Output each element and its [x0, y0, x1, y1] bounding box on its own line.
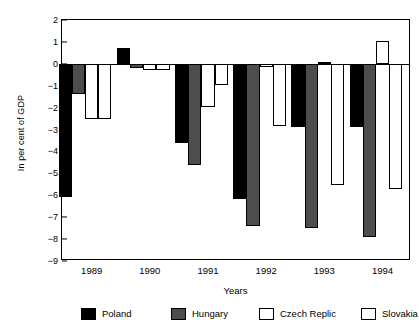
- legend-swatch-slovakia-icon: [361, 308, 376, 320]
- y-tick-label: −6: [48, 191, 58, 200]
- x-axis-label: Years: [61, 285, 410, 296]
- bar-hungary-1990[interactable]: [130, 64, 143, 68]
- chart-legend: PolandHungaryCzech ReplicSlovakia: [61, 305, 410, 323]
- bar-slovakia-1989[interactable]: [98, 64, 111, 119]
- bar-slovakia-1992[interactable]: [273, 64, 286, 126]
- bar-poland-1994[interactable]: [350, 64, 363, 128]
- bar-poland-1991[interactable]: [175, 64, 188, 143]
- bar-czech-1991[interactable]: [201, 64, 214, 107]
- y-tick-mark: [62, 260, 67, 261]
- legend-label-slovakia: Slovakia: [382, 309, 418, 319]
- y-tick-label: −2: [48, 103, 58, 112]
- y-tick-label: 0: [53, 59, 58, 68]
- y-tick-label: −4: [48, 147, 58, 156]
- bar-group: [237, 20, 295, 259]
- bar-group: [178, 20, 236, 259]
- bar-czech-1992[interactable]: [260, 64, 273, 67]
- bar-czech-1994[interactable]: [376, 41, 389, 64]
- legend-item-czech[interactable]: Czech Replic: [259, 308, 336, 320]
- bar-czech-1990[interactable]: [143, 64, 156, 71]
- bar-poland-1989[interactable]: [59, 64, 72, 198]
- legend-item-hungary[interactable]: Hungary: [171, 308, 228, 320]
- y-tick-label: −8: [48, 235, 58, 244]
- bar-group: [295, 20, 353, 259]
- bar-slovakia-1991[interactable]: [215, 64, 228, 85]
- bar-slovakia-1994[interactable]: [389, 64, 402, 189]
- x-tick-label-1993: 1993: [314, 266, 335, 276]
- bar-hungary-1992[interactable]: [246, 64, 259, 226]
- legend-label-hungary: Hungary: [192, 309, 228, 319]
- x-tick-label-1994: 1994: [372, 266, 393, 276]
- bar-slovakia-1993[interactable]: [331, 64, 344, 186]
- legend-swatch-poland-icon: [81, 308, 96, 320]
- x-tick-label-1990: 1990: [139, 266, 160, 276]
- bar-poland-1990[interactable]: [117, 48, 130, 63]
- legend-item-poland[interactable]: Poland: [81, 308, 132, 320]
- x-tick-label-1989: 1989: [81, 266, 102, 276]
- legend-swatch-hungary-icon: [171, 308, 186, 320]
- bar-poland-1993[interactable]: [291, 64, 304, 128]
- y-tick-label: −7: [48, 213, 58, 222]
- legend-swatch-czech-icon: [259, 308, 274, 320]
- bar-poland-1992[interactable]: [233, 64, 246, 199]
- y-tick-label: −5: [48, 169, 58, 178]
- legend-label-czech: Czech Replic: [280, 309, 336, 319]
- bar-group: [353, 20, 411, 259]
- y-tick-label: 2: [53, 16, 58, 25]
- bar-hungary-1993[interactable]: [305, 64, 318, 228]
- bar-hungary-1989[interactable]: [72, 64, 85, 95]
- legend-item-slovakia[interactable]: Slovakia: [361, 308, 418, 320]
- bar-hungary-1991[interactable]: [188, 64, 201, 165]
- y-tick-label: 1: [53, 37, 58, 46]
- y-tick-label: −3: [48, 125, 58, 134]
- bar-slovakia-1990[interactable]: [156, 64, 169, 71]
- bar-group: [120, 20, 178, 259]
- bar-group: [62, 20, 120, 259]
- legend-label-poland: Poland: [102, 309, 132, 319]
- bar-hungary-1994[interactable]: [363, 64, 376, 237]
- bar-czech-1989[interactable]: [85, 64, 98, 119]
- y-tick-label: −9: [48, 257, 58, 266]
- x-tick-label-1991: 1991: [197, 266, 218, 276]
- y-axis-label: In per cent of GDP: [16, 63, 26, 203]
- plot-area: 210−1−2−3−4−5−6−7−8−9 198919901991199219…: [61, 19, 410, 260]
- x-tick-label-1992: 1992: [256, 266, 277, 276]
- chart-figure: In per cent of GDP 210−1−2−3−4−5−6−7−8−9…: [0, 0, 419, 333]
- bar-czech-1993[interactable]: [318, 62, 331, 64]
- y-tick-label: −1: [48, 81, 58, 90]
